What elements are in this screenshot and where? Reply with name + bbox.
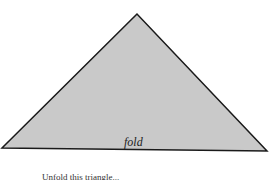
fold-label: fold [124,135,143,150]
triangle-diagram [0,0,277,180]
caption: Unfold this triangle... [42,172,119,180]
folded-triangle [2,14,267,151]
